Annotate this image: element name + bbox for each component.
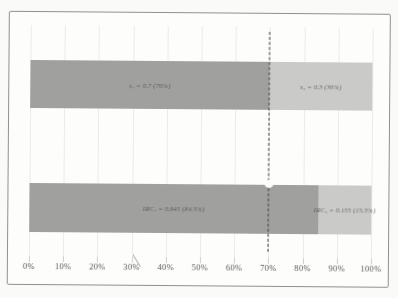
x-axis-tick-label: 100%: [360, 264, 381, 274]
figure: 0%10%20%30%40%50%60%70%80%90%100%s₁ = 0.…: [0, 0, 398, 298]
segment-label: IRC₂ = 0.155 (15.5%): [314, 206, 376, 213]
x-axis-tick-label: 70%: [260, 263, 277, 273]
segment-label: s₁ = 0.7 (70%): [129, 81, 170, 88]
x-axis-tick-label: 90%: [328, 263, 345, 273]
segment-label: s₂ = 0.3 (30%): [300, 83, 341, 90]
x-axis-tick-label: 60%: [226, 263, 243, 273]
segment-label: IRC₁ = 0.845 (84.5%): [143, 205, 205, 212]
x-axis-tick-label: 10%: [55, 261, 72, 271]
bar-shares: s₁ = 0.7 (70%)s₂ = 0.3 (30%): [30, 60, 372, 111]
bar-segment: IRC₁ = 0.845 (84.5%): [29, 183, 318, 234]
bar-incremental-risk-contributions: IRC₁ = 0.845 (84.5%)IRC₂ = 0.155 (15.5%): [29, 183, 371, 235]
bar-segment: s₂ = 0.3 (30%): [269, 62, 372, 111]
scan-artifact: [188, 248, 196, 257]
x-axis-tick-label: 40%: [157, 262, 174, 272]
scan-artifact: [264, 180, 273, 188]
scan-artifact: [358, 129, 365, 137]
x-axis-tick-label: 0%: [23, 261, 35, 271]
x-axis-tick-label: 30%: [123, 262, 140, 272]
x-axis-tick-label: 80%: [294, 263, 311, 273]
plot-area: 0%10%20%30%40%50%60%70%80%90%100%s₁ = 0.…: [29, 25, 373, 259]
chart-frame: 0%10%20%30%40%50%60%70%80%90%100%s₁ = 0.…: [7, 11, 391, 288]
bar-segment: IRC₂ = 0.155 (15.5%): [318, 185, 371, 234]
bar-segment: s₁ = 0.7 (70%): [30, 60, 270, 110]
x-axis-tick-label: 20%: [89, 261, 106, 271]
x-axis-tick-label: 50%: [192, 262, 209, 272]
